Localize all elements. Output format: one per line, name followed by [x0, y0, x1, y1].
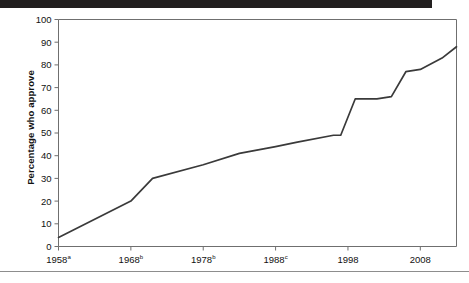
x-tick-label: 2008 [410, 254, 431, 265]
footer-rule [0, 271, 469, 272]
x-tick-label: 1988c [264, 254, 288, 265]
y-axis-tick-labels: 0102030405060708090100 [36, 14, 52, 252]
x-tick-label-superscript: b [212, 254, 216, 260]
y-tick-label: 50 [41, 127, 52, 138]
y-tick-label: 40 [41, 150, 52, 161]
y-tick-label: 80 [41, 59, 52, 70]
y-tick-label: 20 [41, 196, 52, 207]
y-tick-label: 70 [41, 82, 52, 93]
chart-figure: Percentage who approve 01020304050607080… [0, 0, 469, 283]
y-tick-label: 90 [41, 37, 52, 48]
x-axis-tick-labels: 1958a1968b1978b1988c19982008 [46, 254, 431, 265]
x-tick-label-superscript: b [140, 254, 144, 260]
y-tick-label: 60 [41, 105, 52, 116]
y-tick-label: 100 [36, 14, 52, 25]
series-path-percentage-who-approve [59, 47, 457, 238]
y-axis-tick-marks [55, 20, 59, 247]
data-series-line [59, 47, 457, 238]
plot-frame [59, 20, 457, 247]
y-tick-label: 10 [41, 218, 52, 229]
x-tick-label: 1958a [46, 254, 71, 265]
x-tick-label-superscript: c [285, 254, 288, 260]
y-tick-label: 0 [46, 241, 51, 252]
y-tick-label: 30 [41, 173, 52, 184]
x-tick-label: 1978b [191, 254, 216, 265]
x-tick-label: 1968b [119, 254, 144, 265]
x-tick-label-superscript: a [67, 254, 71, 260]
x-axis-tick-marks [59, 247, 421, 251]
line-chart-plot: 0102030405060708090100 1958a1968b1978b19… [0, 0, 469, 283]
x-tick-label: 1998 [337, 254, 358, 265]
